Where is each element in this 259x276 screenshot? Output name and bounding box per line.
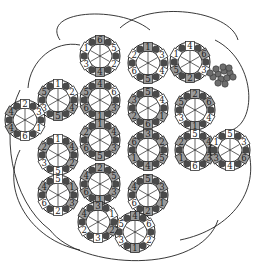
tile-number: 1 [131, 153, 136, 163]
web-line [180, 62, 190, 68]
tile-number: 4 [97, 67, 102, 77]
tile-ring: 531264 [128, 174, 168, 216]
web-line [100, 140, 110, 146]
tile-number: 4 [97, 79, 102, 89]
tile-ring: 231644 [5, 99, 45, 141]
tile-ring: 134562 [128, 42, 168, 84]
web-line [190, 62, 200, 68]
tile-number: 6 [131, 137, 136, 147]
tile-number: 5 [41, 87, 46, 97]
web-line [148, 58, 158, 64]
tile-number: 3 [36, 107, 41, 117]
tile-ring: 253164 [80, 163, 120, 205]
web-line [148, 103, 158, 109]
tile-ring: 142532 [38, 134, 78, 176]
tile-number: 6 [83, 143, 88, 153]
web-line [88, 222, 98, 228]
tile-number: 3 [178, 113, 183, 123]
tile-ring: 463165 [80, 79, 120, 121]
tile-number: 6 [22, 131, 27, 141]
grape [220, 64, 226, 70]
web-line [138, 103, 148, 109]
tile-number: 5 [83, 87, 88, 97]
tile-number: 1 [109, 209, 114, 219]
tile-number: 1 [213, 137, 218, 147]
tile-number: 2 [145, 206, 150, 216]
tile-number: 4 [111, 127, 116, 137]
web-line [100, 56, 110, 62]
tile-ring-diagram: 6524311345624632511245354631655416232641… [0, 0, 259, 276]
web-line [138, 190, 148, 196]
tile-number: 1 [97, 119, 102, 129]
tile-number: 4 [131, 182, 136, 192]
web-line [100, 179, 110, 185]
web-line [48, 100, 58, 106]
tile-number: 3 [95, 201, 100, 211]
tile-number: 2 [131, 50, 136, 60]
tile-number: 1 [159, 111, 164, 121]
tile-ring: 264135 [175, 89, 215, 131]
web-line [148, 195, 158, 201]
tile-number: 4 [187, 41, 192, 51]
web-line [135, 232, 145, 238]
tile-number: 3 [69, 198, 74, 208]
web-line [90, 56, 100, 62]
web-line [100, 184, 110, 190]
web-line [15, 120, 25, 126]
grape [226, 65, 232, 71]
tile-number: 3 [95, 233, 100, 243]
web-line [125, 232, 135, 238]
tile-number: 2 [146, 235, 151, 245]
tile-number: 1 [55, 79, 60, 89]
web-line [135, 227, 145, 233]
web-line [100, 95, 110, 101]
tile-number: 2 [159, 137, 164, 147]
tile-number: 5 [55, 111, 60, 121]
tile-number: 1 [83, 43, 88, 53]
tile-number: 1 [178, 153, 183, 163]
web-line [58, 150, 68, 156]
web-line [90, 140, 100, 146]
tile-number: 2 [69, 87, 74, 97]
tile-number: 4 [69, 142, 74, 152]
web-line [58, 95, 68, 101]
tile-number: 6 [145, 119, 150, 129]
web-line [90, 179, 100, 185]
tile-number: 4 [227, 161, 232, 171]
tile-number: 3 [111, 103, 116, 113]
tile-number: 4 [81, 209, 86, 219]
web-line [148, 63, 158, 69]
tile-number: 3 [83, 59, 88, 69]
tile-number: 2 [41, 142, 46, 152]
tile-number: 2 [22, 99, 27, 109]
grape [230, 74, 236, 80]
web-line [148, 145, 158, 151]
web-line [88, 217, 98, 223]
grape [213, 66, 219, 72]
tile-number: 6 [41, 198, 46, 208]
tile-number: 1 [159, 198, 164, 208]
web-line [138, 63, 148, 69]
tile-ring: 541623 [128, 87, 168, 129]
tile-number: 4 [159, 66, 164, 76]
web-line [15, 115, 25, 121]
outer-arc [120, 11, 238, 40]
grape [222, 81, 228, 87]
tile-number: 3 [41, 158, 46, 168]
web-line [25, 115, 35, 121]
web-line [98, 217, 108, 223]
web-line [48, 195, 58, 201]
tile-number: 1 [132, 243, 137, 253]
tile-number: 5 [111, 171, 116, 181]
tile-number: 5 [118, 219, 123, 229]
web-line [25, 120, 35, 126]
tile-number: 6 [111, 87, 116, 97]
web-line [195, 150, 205, 156]
web-line [90, 95, 100, 101]
web-line [48, 190, 58, 196]
tile-number: 6 [131, 198, 136, 208]
web-line [230, 145, 240, 151]
tile-number: 3 [111, 143, 116, 153]
tile-number: 5 [227, 129, 232, 139]
tile-number: 5 [55, 174, 60, 184]
